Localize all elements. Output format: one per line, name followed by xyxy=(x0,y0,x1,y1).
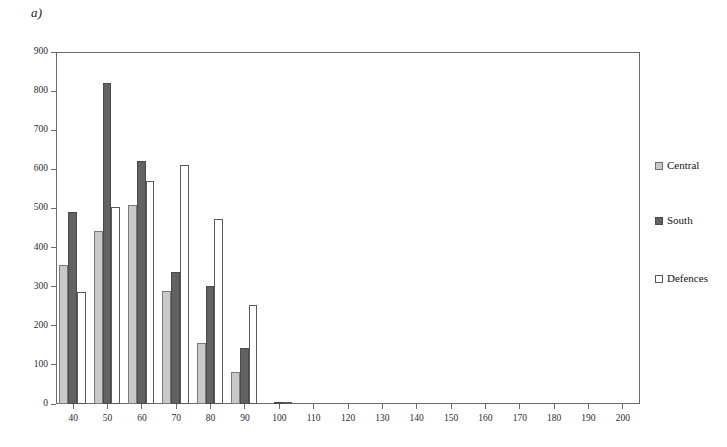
bar-south-50 xyxy=(103,83,112,404)
y-tick-label: 600 xyxy=(34,162,48,175)
x-tick-mark xyxy=(416,404,417,409)
x-tick-mark xyxy=(485,404,486,409)
bar-central-90 xyxy=(231,372,240,404)
x-tick-mark xyxy=(588,404,589,409)
y-tick-label: 100 xyxy=(34,358,48,371)
x-tick-label: 200 xyxy=(603,413,643,423)
bar-central-40 xyxy=(59,265,68,404)
legend-label: Defences xyxy=(667,273,708,284)
bar-defences-80 xyxy=(214,219,223,404)
legend-item-south[interactable]: South xyxy=(655,215,693,226)
legend-swatch-icon xyxy=(655,217,663,225)
x-tick-mark xyxy=(451,404,452,409)
bar-central-60 xyxy=(128,205,137,404)
y-tick-label: 800 xyxy=(34,84,48,97)
y-tick-label: 300 xyxy=(34,280,48,293)
x-tick-mark xyxy=(382,404,383,409)
x-tick-mark xyxy=(244,404,245,409)
bar-south-40 xyxy=(68,212,77,404)
bar-central-50 xyxy=(94,231,103,404)
legend-swatch-icon xyxy=(655,275,663,283)
bar-central-70 xyxy=(162,291,171,404)
bar-south-70 xyxy=(171,272,180,404)
x-tick-mark xyxy=(210,404,211,409)
bar-defences-40 xyxy=(77,292,86,404)
bar-south-90 xyxy=(240,348,249,404)
y-tick-label: 700 xyxy=(34,123,48,136)
y-tick-label: 200 xyxy=(34,319,48,332)
x-tick-mark xyxy=(554,404,555,409)
y-tick-label: 900 xyxy=(34,45,48,58)
legend-label: Central xyxy=(667,160,699,171)
x-tick-mark xyxy=(176,404,177,409)
legend-swatch-icon xyxy=(655,162,663,170)
legend-item-central[interactable]: Central xyxy=(655,160,699,171)
bar-defences-50 xyxy=(111,207,120,405)
y-tick-label: 0 xyxy=(43,397,48,410)
bar-defences-70 xyxy=(180,165,189,404)
bar-central-80 xyxy=(197,343,206,404)
x-tick-mark xyxy=(73,404,74,409)
panel-label: a) xyxy=(31,5,42,21)
x-tick-mark xyxy=(107,404,108,409)
x-tick-mark xyxy=(141,404,142,409)
x-tick-mark xyxy=(279,404,280,409)
y-tick-label: 400 xyxy=(34,241,48,254)
bar-defences-60 xyxy=(146,181,155,404)
x-tick-mark xyxy=(313,404,314,409)
plot-area xyxy=(56,52,640,404)
x-tick-mark xyxy=(348,404,349,409)
y-tick-label: 500 xyxy=(34,201,48,214)
bar-south-80 xyxy=(206,286,215,405)
x-axis: 4050607080901001101201301401501601701801… xyxy=(56,404,640,444)
bar-south-60 xyxy=(137,161,146,404)
x-tick-mark xyxy=(622,404,623,409)
y-axis: 0100200300400500600700800900 xyxy=(0,40,56,420)
legend-item-defences[interactable]: Defences xyxy=(655,273,708,284)
legend-label: South xyxy=(667,215,693,226)
bar-defences-90 xyxy=(249,305,258,404)
figure-root: a) 0100200300400500600700800900 40506070… xyxy=(0,0,727,447)
x-tick-mark xyxy=(519,404,520,409)
